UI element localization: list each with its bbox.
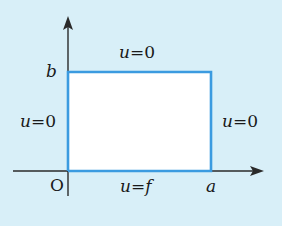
left-boundary-label: u=0 bbox=[20, 113, 56, 130]
rectangle-boundary-diagram: u=0 u=0 u=0 u=f b a O bbox=[0, 0, 282, 226]
right-boundary-label: u=0 bbox=[222, 113, 258, 130]
y-extent-label-b: b bbox=[46, 63, 57, 80]
bottom-boundary-label: u=f bbox=[120, 178, 152, 195]
top-boundary-label: u=0 bbox=[119, 44, 155, 61]
x-extent-label-a: a bbox=[206, 178, 216, 195]
origin-label: O bbox=[50, 177, 64, 194]
domain-interior bbox=[68, 72, 211, 171]
